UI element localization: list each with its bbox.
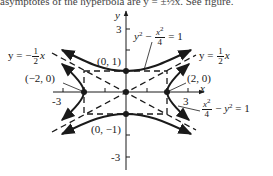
equation-vertical-hyperbola: y2 − x24 = 1 [134, 28, 183, 47]
x-tick-label-3: 3 [183, 96, 189, 107]
hyperbola-diagram: asymptotes of the hyperbola are y = ±½x.… [0, 0, 273, 176]
point-label-2-0: (2, 0) [187, 73, 211, 84]
equation-asymptote-negative: y = −12x [8, 47, 45, 66]
point-label-neg2-0: (−2, 0) [25, 73, 55, 84]
point-0-1 [123, 68, 129, 74]
y-tick-label-3: 3 [116, 24, 122, 35]
y-axis-label: y [115, 10, 120, 21]
point-0-neg1 [123, 111, 129, 117]
y-tick-label-neg3: -3 [111, 152, 120, 163]
point-label-0-neg1: (0, −1) [91, 124, 121, 135]
point-label-0-1: (0, 1) [97, 56, 121, 67]
x-tick-label-neg3: -3 [52, 96, 61, 107]
clipped-caption: asymptotes of the hyperbola are y = ±½x.… [0, 0, 233, 7]
origin-point [123, 89, 129, 95]
x-axis-label: x [200, 83, 205, 94]
point-neg2-0 [81, 89, 87, 95]
point-2-0 [164, 89, 170, 95]
equation-asymptote-positive: y = 12x [199, 47, 230, 66]
equation-horizontal-hyperbola: x24 − y2 = 1 [201, 100, 250, 119]
graph-canvas [0, 0, 273, 176]
